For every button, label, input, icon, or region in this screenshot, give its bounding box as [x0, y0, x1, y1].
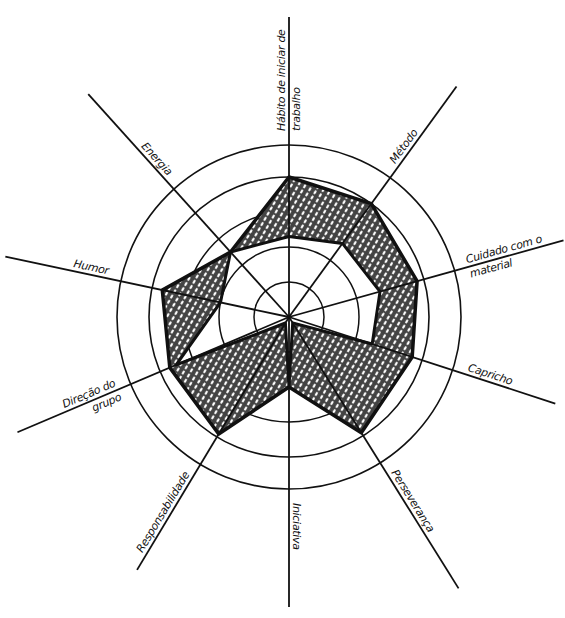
axis-label-text: Hábito de iniciar de	[275, 29, 288, 131]
axis-line	[5, 257, 289, 317]
axis-label: Iniciativa	[290, 503, 303, 550]
axis-label-text: Iniciativa	[290, 503, 303, 550]
axis-label: Energia	[139, 140, 176, 179]
axis-line	[289, 240, 564, 317]
axis-labels: Hábito de iniciar detrabalhoMétodoCuidad…	[60, 29, 548, 555]
axis-label-text: Capricho	[466, 361, 515, 388]
axis-label-text: Energia	[139, 140, 176, 179]
axis-label-text: Responsabilidade	[134, 469, 193, 555]
axis-label-text: Perseverança	[388, 467, 437, 535]
axis-label: Perseverança	[388, 467, 437, 535]
axis-label-text: trabalho	[290, 87, 303, 131]
axis-label: Responsabilidade	[134, 469, 193, 555]
radar-chart: Hábito de iniciar detrabalhoMétodoCuidad…	[0, 0, 565, 618]
axis-label: Capricho	[466, 361, 515, 388]
